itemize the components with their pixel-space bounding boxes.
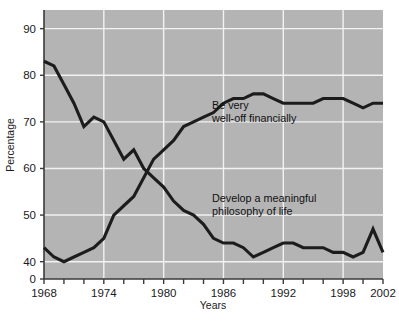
x-tick-label: 2002 [370, 287, 396, 299]
x-tick-label: 1974 [91, 287, 117, 299]
series-label-financially-line1: Be very [212, 99, 249, 111]
line-chart: 0405060708090 19681974198019861992199820… [0, 0, 399, 321]
series-label-financially-line2: well-off financially [211, 112, 297, 124]
y-tick-label: 80 [23, 69, 36, 81]
series-label-philosophy-line1: Develop a meaningful [212, 192, 316, 204]
x-tick-label: 1980 [151, 287, 177, 299]
x-tick-label: 1968 [31, 287, 57, 299]
y-tick-label: 0 [30, 273, 36, 285]
y-axis-tick-labels: 0405060708090 [23, 23, 36, 285]
y-tick-label: 60 [23, 162, 36, 174]
x-axis-title: Years [200, 299, 226, 311]
x-tick-label: 1998 [330, 287, 356, 299]
x-tick-label: 1992 [270, 287, 296, 299]
x-tick-label: 1986 [211, 287, 237, 299]
x-axis-tick-labels: 1968197419801986199219982002 [31, 287, 396, 299]
y-tick-label: 40 [23, 256, 36, 268]
y-tick-label: 50 [23, 209, 36, 221]
y-tick-label: 90 [23, 23, 36, 35]
y-tick-label: 70 [23, 116, 36, 128]
series-label-philosophy-line2: philosophy of life [212, 205, 292, 217]
chart-figure: 0405060708090 19681974198019861992199820… [0, 0, 399, 321]
y-axis-title: Percentage [4, 118, 16, 172]
